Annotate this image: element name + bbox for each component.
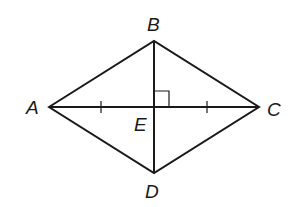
right-angle-mark [154,91,169,107]
label-a: A [25,97,39,118]
rhombus-diagram: B A C E D [0,0,288,207]
label-d: D [145,181,159,202]
label-c: C [267,99,281,120]
label-b: B [147,14,160,35]
label-e: E [134,114,147,135]
